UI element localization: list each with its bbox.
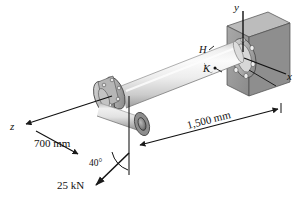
dimension-700: 700 mm xyxy=(34,131,78,154)
stub-shaft xyxy=(97,103,152,138)
main-shaft-body xyxy=(121,41,241,108)
dimension-1500: 1,500 mm xyxy=(140,103,281,145)
angle-indicator: 40° xyxy=(89,152,128,170)
figure-canvas: y x z 700 mm 1,500 mm 40° xyxy=(0,0,298,199)
point-h-leader xyxy=(209,46,214,50)
point-k-label: K xyxy=(202,63,211,74)
axis-x-label: x xyxy=(286,70,292,82)
axis-z-label: z xyxy=(9,120,15,132)
dimension-700-label: 700 mm xyxy=(34,137,71,149)
point-h-label: H xyxy=(198,44,208,55)
engineering-figure: y x z 700 mm 1,500 mm 40° xyxy=(0,0,298,199)
axis-z: z xyxy=(9,96,112,132)
axis-y-label: y xyxy=(233,1,239,13)
load-magnitude-label: 25 kN xyxy=(57,179,84,191)
angle-label: 40° xyxy=(89,158,103,168)
